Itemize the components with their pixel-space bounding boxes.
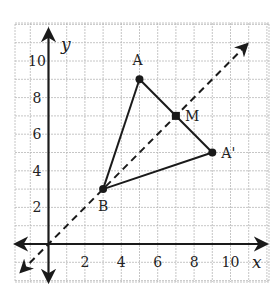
points: ABA'M: [98, 52, 235, 214]
y-tick-label: 8: [33, 90, 42, 106]
point-b-label: B: [98, 198, 108, 214]
point-a-marker: [136, 75, 144, 83]
y-tick-label: 4: [33, 163, 42, 179]
point-b-marker: [99, 185, 107, 193]
point-m-marker: [172, 112, 180, 120]
point-m-label: M: [185, 108, 199, 124]
y-tick-label: 10: [28, 53, 46, 69]
y-tick-label: 2: [33, 199, 42, 215]
tick-labels: 246810246810: [28, 53, 239, 270]
x-tick-label: 10: [222, 254, 240, 270]
y-tick-label: 6: [33, 126, 42, 142]
x-tick-label: 2: [80, 254, 89, 270]
dashed-line-y-equals-x: [21, 45, 247, 272]
x-tick-label: 8: [190, 254, 199, 270]
x-tick-label: 6: [153, 254, 162, 270]
point-a-prime-label: A': [220, 145, 235, 161]
point-a-label: A: [131, 52, 143, 68]
dashed-line: [21, 45, 247, 272]
point-a-prime-marker: [208, 149, 216, 157]
x-tick-label: 4: [117, 254, 126, 270]
x-axis-label: x: [252, 252, 262, 272]
y-axis-label: y: [60, 34, 71, 54]
coordinate-graph: xy 246810246810 ABA'M: [0, 0, 280, 292]
